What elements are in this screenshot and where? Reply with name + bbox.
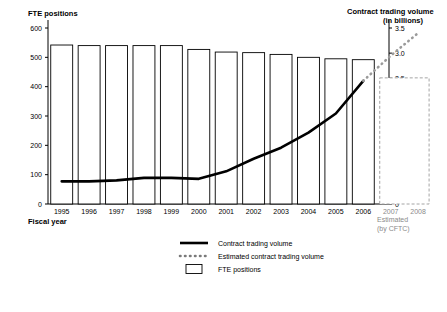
chart-container: FTE positions Contract trading volume (i… [0,0,447,312]
legend-label-bar: FTE positions [218,266,261,274]
bar-fte-estimated [380,78,429,204]
bar-fte-2001 [215,52,237,204]
y2-tick-label: 3.5 [395,25,405,32]
x-tick-label: 2000 [191,208,207,215]
legend-swatch-bar [186,265,202,274]
line-contract-volume-estimated [363,33,418,81]
x-tick-label: 2008 [410,208,426,215]
y-tick-label: 400 [30,83,42,90]
bar-fte-2003 [270,54,292,204]
x-tick-label: 2007 [383,208,399,215]
bar-fte-2002 [243,53,265,204]
bar-fte-2005 [325,59,347,204]
x-tick-label: 2005 [328,208,344,215]
x-tick-label: 2003 [273,208,289,215]
x-tick-label: 1997 [109,208,125,215]
x-tick-label: 1998 [136,208,152,215]
y-tick-label: 0 [38,201,42,208]
legend-label-line: Contract trading volume [218,240,292,248]
bar-fte-2004 [297,57,319,204]
y-tick-label: 500 [30,54,42,61]
y-tick-label: 100 [30,171,42,178]
x-tick-label: 1999 [164,208,180,215]
x-tick-label: 1996 [81,208,97,215]
chart-svg: 010020030040050060000.51.01.52.02.53.03.… [0,0,447,312]
bar-fte-1998 [133,46,155,204]
legend-label-dotted: Estimated contract trading volume [218,253,324,261]
x-tick-label: 2002 [246,208,262,215]
x-tick-label: 2001 [218,208,234,215]
y-tick-label: 200 [30,142,42,149]
y-tick-label: 600 [30,25,42,32]
x-tick-label: 2006 [356,208,372,215]
x-tick-label: 1995 [54,208,70,215]
x-tick-label: 2004 [301,208,317,215]
bar-fte-2000 [188,49,210,204]
bar-fte-1999 [160,46,182,204]
y-tick-label: 300 [30,113,42,120]
